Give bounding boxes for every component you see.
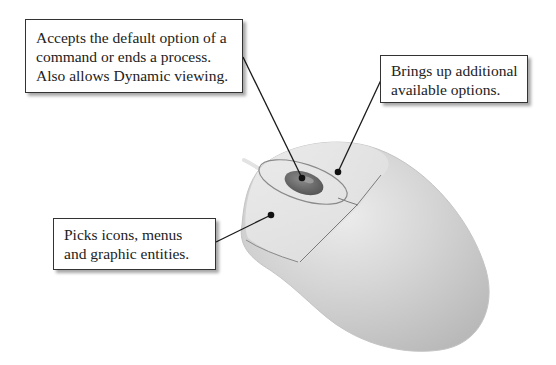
callout-right-button: Brings up additional available options.	[380, 55, 528, 103]
dot-left-button	[268, 212, 275, 219]
dot-right-button	[335, 169, 342, 176]
callout-left-button: Picks icons, menus and graphic entities.	[53, 218, 216, 270]
callout-middle-button: Accepts the default option of a command …	[25, 19, 243, 93]
callout-left-line-1: Picks icons, menus	[64, 225, 207, 244]
callout-middle-line-3: Also allows Dynamic viewing.	[36, 66, 234, 85]
callout-middle-line-2: command or ends a process.	[36, 47, 234, 66]
callout-middle-line-1: Accepts the default option of a	[36, 28, 234, 47]
mouse-cable	[244, 160, 258, 168]
mouse-diagram: Accepts the default option of a command …	[0, 0, 556, 365]
callout-right-line-1: Brings up additional	[391, 61, 519, 80]
callout-right-line-2: available options.	[391, 80, 519, 99]
dot-middle-button	[299, 175, 306, 182]
callout-left-line-2: and graphic entities.	[64, 244, 207, 263]
